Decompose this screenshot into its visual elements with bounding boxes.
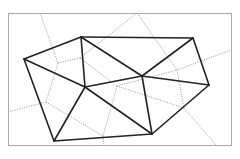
delaunay-edge-BH (81, 37, 142, 76)
delaunay-edge-HD (142, 76, 209, 85)
delaunay-edge-GE (54, 87, 85, 141)
delaunay-edge-BG (81, 37, 85, 87)
delaunay-voronoi-diagram (0, 0, 240, 159)
voronoi-edge (177, 70, 184, 108)
voronoi-edge (103, 86, 117, 136)
voronoi-edge (40, 13, 58, 63)
delaunay-edge-CD (193, 38, 209, 85)
voronoi-edge (80, 13, 137, 58)
delaunay-edge-AB (24, 37, 81, 59)
delaunay-edge-HF (142, 76, 152, 134)
voronoi-edge (46, 63, 58, 102)
voronoi-edge (46, 102, 103, 136)
voronoi-edge (58, 58, 80, 63)
voronoi-edges (8, 13, 231, 145)
delaunay-edge-BC (81, 37, 193, 38)
voronoi-edge (117, 86, 184, 108)
voronoi-edge (137, 13, 177, 70)
voronoi-edge (177, 50, 231, 70)
delaunay-edge-CH (142, 38, 193, 76)
voronoi-edge (184, 108, 216, 145)
